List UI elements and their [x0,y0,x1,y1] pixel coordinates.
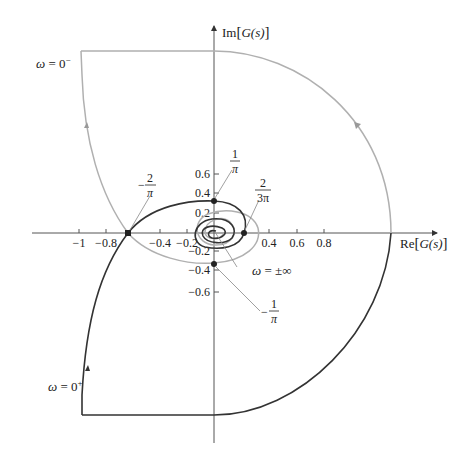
omega-infinity-label: ω = ±∞ [252,263,291,278]
point-neg-2-over-pi [125,230,131,236]
y-tick-label: −0.4 [188,263,210,277]
nyquist-diagram: −1 −0.8 −0.4 −0.2 0.4 0.6 0.8 0.6 0.4 0.… [0,0,461,467]
y-tick-label: −0.2 [188,244,210,258]
neg-2-over-pi-label: − 2 π [138,171,156,200]
svg-text:π: π [271,312,278,326]
svg-text:2: 2 [260,176,266,190]
y-tick-label: −0.6 [188,285,210,299]
two-over-3pi-label: 2 3π [255,176,271,205]
svg-text:π: π [147,186,154,200]
svg-text:3π: 3π [257,191,269,205]
one-over-pi-label: 1 π [230,147,240,176]
svg-text:π: π [232,162,239,176]
x-tick-label: 0.8 [317,236,332,250]
y-tick-label: 0.4 [195,186,210,200]
y-axis-label: Im[G(s)] [222,24,270,40]
svg-text:−: − [261,305,268,319]
x-tick-label: −0.8 [95,236,117,250]
x-tick-label: −0.4 [149,236,171,250]
svg-text:1: 1 [232,147,238,161]
x-axis-label: Re[G(s)] [400,235,448,251]
omega-0-minus-label: ω = 0− [36,55,71,71]
x-tick-label: 0.4 [262,236,277,250]
point-2-over-3pi [241,230,247,236]
y-tick-label: 0.6 [195,167,210,181]
arrow-icon [85,365,90,371]
svg-text:−: − [138,178,145,192]
x-tick-label: −1 [73,236,86,250]
omega-0-plus-label: ω = 0+ [48,378,83,394]
x-tick-label: 0.6 [290,236,305,250]
neg-1-over-pi-label: − 1 π [261,297,279,326]
svg-text:2: 2 [147,171,153,185]
point-1-over-pi [211,198,217,204]
point-neg-1-over-pi [211,261,217,267]
svg-text:1: 1 [271,297,277,311]
